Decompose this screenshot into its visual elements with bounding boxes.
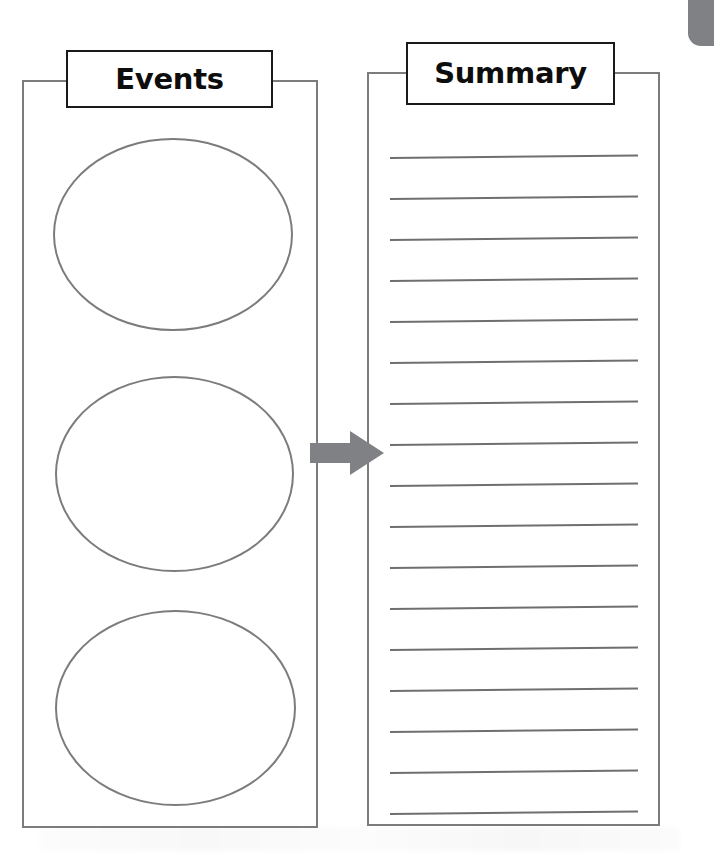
summary-column-header-label: Summary — [434, 59, 587, 88]
event-ellipse-3[interactable] — [55, 610, 296, 806]
event-ellipse-1[interactable] — [53, 138, 293, 331]
summary-column-frame — [367, 72, 660, 826]
scan-smudge-artifact — [40, 827, 680, 851]
events-column-header-label: Events — [115, 65, 223, 94]
worksheet-canvas: Events Summary — [0, 0, 714, 861]
flow-arrow-right-icon — [310, 431, 384, 475]
summary-column-header: Summary — [406, 42, 615, 105]
event-ellipse-2[interactable] — [55, 376, 294, 572]
events-column-header: Events — [66, 50, 273, 108]
page-corner-tab — [688, 0, 714, 46]
